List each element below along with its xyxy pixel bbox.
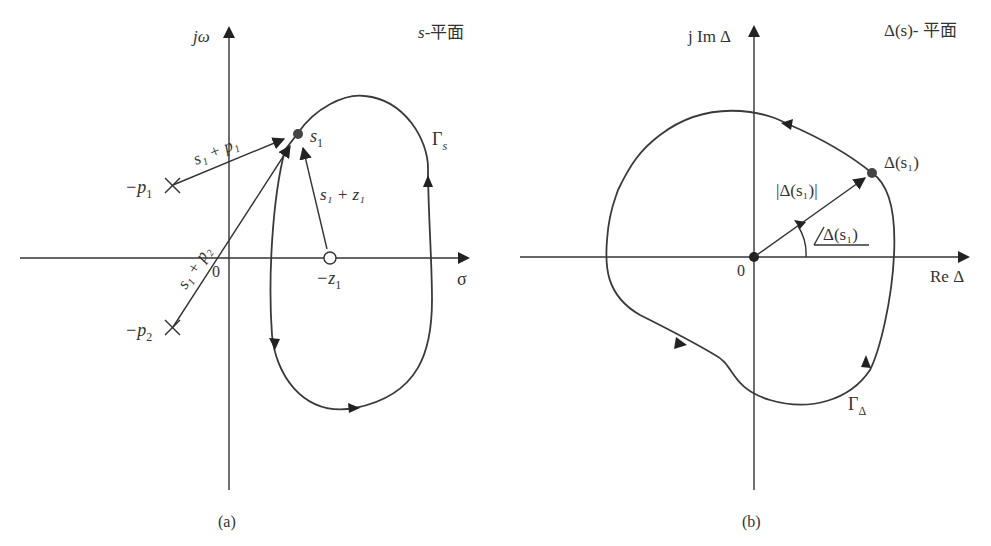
nyquist-mapping-figure: jω σ 0 s-平面 Γs s1 −p1 −p2 −z1 s₁ bbox=[0, 0, 991, 546]
magnitude-label: |Δ(s₁)| bbox=[776, 181, 818, 200]
sigma-axis-arrowhead-icon bbox=[458, 252, 470, 264]
pole-p1-label: −p1 bbox=[125, 177, 152, 201]
gamma-delta-direction-arrow-icon bbox=[861, 355, 871, 368]
caption-a: (a) bbox=[218, 513, 236, 531]
pole-p2-label: −p2 bbox=[125, 320, 152, 344]
re-axis-label: Re Δ bbox=[930, 267, 964, 286]
s1-label: s1 bbox=[310, 126, 323, 150]
gamma-s-contour bbox=[271, 96, 432, 410]
vector-p1-label: s₁ + p₁ bbox=[190, 134, 241, 169]
delta-s1-label: Δ(s₁) bbox=[884, 153, 919, 172]
panel-b-delta-plane: j Im Δ Re Δ 0 Δ(s)- 平面 ΓΔ Δ(s₁) |Δ(s₁)| … bbox=[520, 21, 970, 531]
s1-point bbox=[293, 129, 303, 139]
origin-label-b: 0 bbox=[737, 262, 745, 279]
im-axis-arrowhead-icon bbox=[748, 25, 760, 37]
gamma-s-direction-arrow-icon bbox=[423, 175, 433, 187]
vector-z1-label: s₁ + z₁ bbox=[320, 185, 365, 204]
caption-b: (b) bbox=[742, 513, 761, 531]
im-axis-label: j Im Δ bbox=[687, 27, 731, 46]
jw-axis-label: jω bbox=[191, 27, 210, 46]
svg-text:Δ(s₁): Δ(s₁) bbox=[823, 225, 858, 244]
delta-s1-point bbox=[867, 168, 877, 178]
gamma-delta-label: ΓΔ bbox=[848, 394, 866, 418]
gamma-s-direction-arrow-icon bbox=[269, 338, 280, 350]
re-axis-arrowhead-icon bbox=[958, 251, 970, 263]
delta-plane-label: Δ(s)- 平面 bbox=[884, 21, 957, 40]
jw-axis-arrowhead-icon bbox=[223, 26, 235, 38]
pole-p2-marker bbox=[165, 320, 180, 335]
pole-p1-marker bbox=[165, 178, 180, 193]
gamma-s-direction-arrow-icon bbox=[348, 403, 360, 413]
zero-z1-marker bbox=[324, 252, 336, 264]
gamma-s-label: Γs bbox=[432, 129, 447, 153]
angle-label: Δ(s₁) bbox=[814, 225, 869, 245]
panel-a-s-plane: jω σ 0 s-平面 Γs s1 −p1 −p2 −z1 s₁ bbox=[20, 23, 470, 531]
vector-p2-label: s₁ + p₂ bbox=[173, 242, 215, 292]
zero-z1-label: −z1 bbox=[316, 268, 341, 292]
sigma-axis-label: σ bbox=[457, 269, 467, 289]
angle-arc bbox=[798, 226, 806, 257]
s-plane-label: s-平面 bbox=[418, 23, 464, 42]
